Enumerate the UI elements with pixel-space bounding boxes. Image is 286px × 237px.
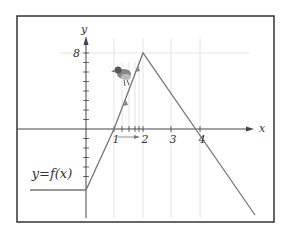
x-tick-label-1: 1 (113, 133, 120, 146)
x-axis-arrow-icon (246, 127, 254, 132)
x-tick-label-2: 2 (141, 133, 149, 146)
approach-arrow-head-icon (134, 135, 140, 139)
y-tick-label-8: 8 (73, 47, 80, 60)
frame (17, 16, 274, 222)
function-label: y=f(x) (31, 166, 73, 181)
x-tick-label-3: 3 (170, 133, 177, 146)
axes (17, 42, 250, 218)
x-tick-label-4: 4 (198, 133, 206, 146)
grid-lines (60, 38, 250, 218)
y-axis-arrow-icon (84, 36, 89, 45)
y-axis-label: y (80, 23, 88, 36)
function-graph: y x 8 1 2 3 4 y=f(x) (0, 0, 286, 237)
x-axis-label: x (259, 122, 266, 135)
